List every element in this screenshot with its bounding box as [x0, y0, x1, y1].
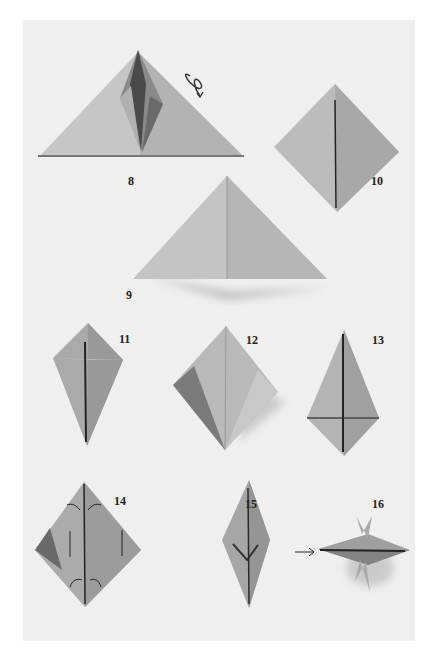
step-number-16: 16 — [372, 497, 384, 512]
step-number-13: 13 — [372, 333, 384, 348]
turn-over-icon — [186, 74, 203, 97]
step-number-9: 9 — [126, 288, 132, 303]
step-13-figure — [307, 330, 379, 456]
step-number-12: 12 — [246, 333, 258, 348]
step-number-11: 11 — [119, 332, 130, 347]
step-9-figure — [133, 176, 330, 300]
push-arrow-icon — [295, 548, 314, 556]
origami-diagrams — [23, 20, 415, 641]
step-16-figure — [318, 516, 410, 592]
step-10-figure — [274, 84, 399, 212]
step-number-8: 8 — [128, 174, 134, 189]
origami-instructions-photo: 8 9 10 11 12 13 14 15 16 — [23, 20, 415, 641]
step-8-figure — [38, 50, 244, 156]
step-number-10: 10 — [371, 174, 383, 189]
step-number-15: 15 — [245, 497, 257, 512]
step-number-14: 14 — [114, 494, 126, 509]
step-11-figure — [53, 323, 123, 446]
step-12-figure — [173, 326, 286, 450]
